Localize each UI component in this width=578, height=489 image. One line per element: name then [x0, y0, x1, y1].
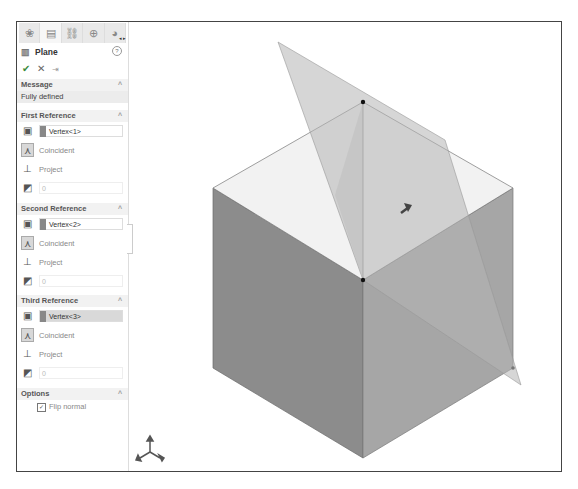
first-reference-value[interactable]: 0 — [39, 182, 123, 194]
property-manager-panel: ❀ ▤ ⛓ ⊕ ◕ ◂ ▸ ▥Plane ? ✔ ✕ ⇥ Message^ Fu… — [17, 22, 129, 471]
project-label: Project — [39, 258, 62, 267]
coincident-label: Coincident — [39, 146, 74, 155]
property-manager-tab[interactable]: ▤ — [40, 23, 61, 43]
message-header[interactable]: Message^ — [17, 79, 128, 91]
collapse-icon[interactable]: ^ — [118, 388, 122, 400]
flip-normal-label: Flip normal — [49, 402, 86, 411]
coincident-icon[interactable]: ⋏ — [21, 143, 34, 157]
configuration-manager-icon: ⛓ — [65, 27, 79, 40]
options-section: Options^ ✓Flip normal — [17, 388, 128, 419]
section-title: Second Reference — [21, 204, 86, 213]
project-icon[interactable]: ⊥ — [21, 347, 34, 361]
third-reference-value[interactable]: 0 — [39, 367, 123, 379]
color-swatch — [40, 311, 46, 322]
project-label: Project — [39, 350, 62, 359]
coincident-label: Coincident — [39, 239, 74, 248]
distance-icon: ◩ — [21, 181, 34, 195]
third-reference-header[interactable]: Third Reference^ — [17, 295, 128, 307]
options-header[interactable]: Options^ — [17, 388, 128, 400]
flip-normal-checkbox[interactable]: ✓Flip normal — [37, 402, 86, 412]
cancel-button[interactable]: ✕ — [37, 63, 45, 74]
second-reference-value[interactable]: 0 — [39, 275, 123, 287]
first-reference-header[interactable]: First Reference^ — [17, 110, 128, 122]
configuration-manager-tab[interactable]: ⛓ — [62, 23, 83, 43]
second-reference-header[interactable]: Second Reference^ — [17, 203, 128, 215]
coincident-icon[interactable]: ⋏ — [21, 236, 34, 250]
project-icon[interactable]: ⊥ — [21, 162, 34, 176]
entity-name: Vertex<3> — [49, 313, 81, 320]
collapse-icon[interactable]: ^ — [118, 295, 122, 307]
message-text: Fully defined — [17, 91, 128, 103]
project-icon[interactable]: ⊥ — [21, 255, 34, 269]
third-reference-field[interactable]: Vertex<3> — [39, 310, 123, 322]
vertex-entity-icon: ▣ — [21, 309, 34, 323]
flyout-tab-handle[interactable] — [127, 224, 133, 254]
distance-icon: ◩ — [21, 274, 34, 288]
section-title: First Reference — [21, 111, 76, 120]
project-label: Project — [39, 165, 62, 174]
tab-scroll-arrows[interactable]: ◂ ▸ — [119, 35, 126, 41]
panel-title: ▥Plane — [21, 47, 58, 57]
second-reference-section: Second Reference^ ▣Vertex<2> ⋏Coincident… — [17, 203, 128, 291]
panel-tabs: ❀ ▤ ⛓ ⊕ ◕ — [19, 23, 126, 43]
feature-manager-tab[interactable]: ❀ — [19, 23, 40, 43]
color-swatch — [40, 126, 46, 137]
dimxpert-tab[interactable]: ⊕ — [83, 23, 104, 43]
color-swatch — [40, 219, 46, 230]
first-reference-section: First Reference^ ▣Vertex<1> ⋏Coincident … — [17, 110, 128, 198]
property-manager-icon: ▤ — [46, 27, 56, 40]
triad-axes-icon — [136, 436, 164, 461]
section-title: Message — [21, 80, 53, 89]
section-title: Options — [21, 389, 49, 398]
vertex-3[interactable] — [511, 366, 515, 370]
distance-icon: ◩ — [21, 366, 34, 380]
panel-title-text: Plane — [35, 47, 58, 57]
section-title: Third Reference — [21, 296, 78, 305]
display-manager-icon: ◕ — [112, 27, 119, 39]
checkbox-check-icon: ✓ — [37, 403, 46, 412]
collapse-icon[interactable]: ^ — [118, 79, 122, 91]
collapse-icon[interactable]: ^ — [118, 203, 122, 215]
vertex-2[interactable] — [361, 278, 365, 282]
vertex-entity-icon: ▣ — [21, 124, 34, 138]
coincident-label: Coincident — [39, 331, 74, 340]
action-buttons: ✔ ✕ ⇥ — [22, 63, 63, 74]
vertex-1[interactable] — [361, 100, 365, 104]
third-reference-section: Third Reference^ ▣Vertex<3> ⋏Coincident … — [17, 295, 128, 383]
dimxpert-icon: ⊕ — [89, 27, 98, 40]
ok-button[interactable]: ✔ — [22, 63, 30, 74]
collapse-icon[interactable]: ^ — [118, 110, 122, 122]
coincident-icon[interactable]: ⋏ — [21, 328, 34, 342]
vertex-entity-icon: ▣ — [21, 217, 34, 231]
feature-manager-icon: ❀ — [25, 27, 34, 40]
plane-icon: ▥ — [21, 47, 30, 57]
pin-button[interactable]: ⇥ — [52, 65, 59, 74]
entity-name: Vertex<1> — [49, 128, 81, 135]
help-button[interactable]: ? — [112, 46, 122, 56]
second-reference-field[interactable]: Vertex<2> — [39, 218, 123, 230]
entity-name: Vertex<2> — [49, 221, 81, 228]
first-reference-field[interactable]: Vertex<1> — [39, 125, 123, 137]
message-section: Message^ Fully defined — [17, 79, 128, 103]
